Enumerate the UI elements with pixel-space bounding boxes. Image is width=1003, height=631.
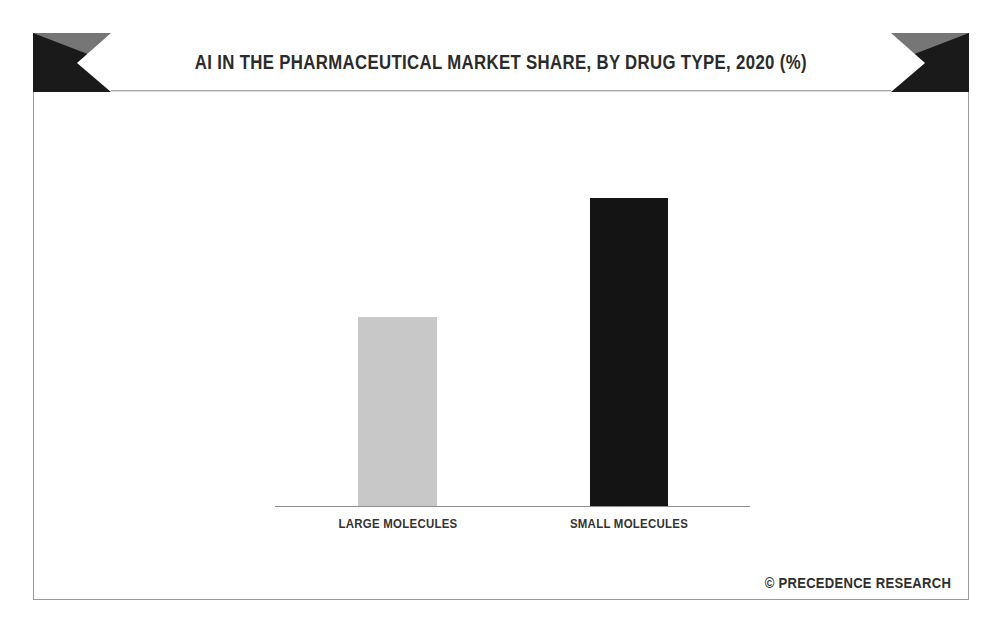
- chart-figure: AI IN THE PHARMACEUTICAL MARKET SHARE, B…: [0, 0, 1003, 631]
- x-tick-label-large-molecules: LARGE MOLECULES: [319, 516, 477, 531]
- banner-decoration-icon: [33, 33, 969, 92]
- source-credit: © PRECEDENCE RESEARCH: [765, 575, 951, 591]
- title-banner: AI IN THE PHARMACEUTICAL MARKET SHARE, B…: [33, 33, 969, 92]
- x-tick-label-small-molecules: SMALL MOLECULES: [550, 516, 708, 531]
- bar-small-molecules[interactable]: [590, 198, 668, 506]
- bar-large-molecules[interactable]: [358, 317, 437, 506]
- plot-area: LARGE MOLECULES SMALL MOLECULES © PRECED…: [33, 92, 969, 600]
- x-axis-line: [275, 506, 750, 507]
